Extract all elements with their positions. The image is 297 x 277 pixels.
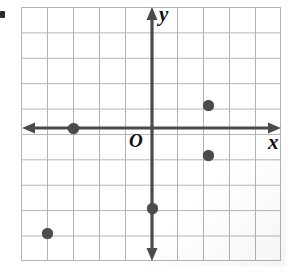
- plotted-point: [203, 150, 214, 161]
- y-axis-up-arrow-icon: [147, 7, 158, 20]
- plotted-point: [42, 228, 53, 239]
- plotted-point: [68, 123, 79, 134]
- y-axis-down-arrow-icon: [147, 248, 158, 261]
- x-axis-left-arrow-icon: [22, 123, 35, 134]
- x-axis-label: x: [268, 132, 279, 153]
- plotted-point: [147, 203, 158, 214]
- plotted-point: [203, 100, 214, 111]
- coordinate-plane-figure: y x O: [0, 0, 297, 277]
- y-axis-label: y: [159, 4, 168, 25]
- origin-label: O: [129, 131, 143, 150]
